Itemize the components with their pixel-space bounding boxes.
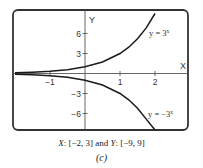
y-tick-label: −6 [71,109,81,119]
x-tick-label: 2 [153,77,158,87]
panel-label: (c) [0,152,203,163]
y-axis-label: Y [89,15,95,25]
y-tick-label: 3 [76,49,81,59]
x-axis-label: X [180,61,186,71]
curve-label-positive: y = 3x [149,28,170,39]
x-tick-label: −1 [45,77,55,87]
curve-label-negative: y = −3x [148,109,173,120]
window-range-caption: X: [−2, 3] and Y: [−9, 9] [0,138,203,148]
caption-y-range: : [−9, 9] [116,138,145,148]
y-tick-label: −3 [71,89,81,99]
y-tick-label: 6 [76,29,81,39]
caption-x-range: : [−2, 3] and [64,138,111,148]
graph-window: −1 1 2 6 3 −3 −6 X Y y = 3x y = −3x [0,0,203,140]
x-tick-label: 1 [118,77,123,87]
